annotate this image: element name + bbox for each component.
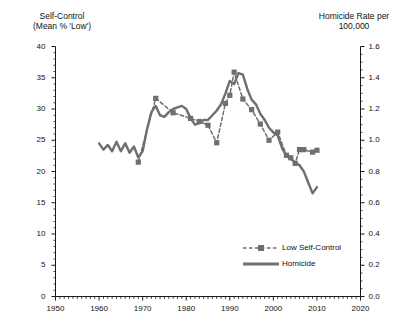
series-marker bbox=[314, 148, 319, 153]
y2-tick-label: 1.0 bbox=[369, 135, 395, 144]
x-tick-label: 1960 bbox=[79, 304, 119, 313]
plot-area bbox=[0, 0, 416, 322]
y-tick-label: 40 bbox=[20, 42, 46, 51]
series-marker bbox=[136, 160, 141, 165]
y2-tick-label: 0.6 bbox=[369, 198, 395, 207]
series-marker bbox=[266, 138, 271, 143]
y2-tick-label: 0.8 bbox=[369, 167, 395, 176]
legend-swatches bbox=[243, 245, 279, 264]
legend-item-low-self-control: Low Self-Control bbox=[282, 243, 341, 253]
y2-tick-label: 0.2 bbox=[369, 260, 395, 269]
series-marker bbox=[227, 93, 232, 98]
series-marker bbox=[153, 96, 158, 101]
y-tick-label: 20 bbox=[20, 167, 46, 176]
series-line-2 bbox=[99, 73, 317, 193]
series-marker bbox=[214, 140, 219, 145]
series-marker bbox=[301, 147, 306, 152]
axes-group bbox=[52, 47, 365, 301]
series-marker bbox=[223, 101, 228, 106]
y-tick-label: 35 bbox=[20, 73, 46, 82]
series-marker bbox=[232, 70, 237, 75]
legend-item-homicide: Homicide bbox=[282, 259, 315, 269]
y2-tick-label: 1.6 bbox=[369, 42, 395, 51]
y-tick-label: 15 bbox=[20, 198, 46, 207]
y-tick-label: 10 bbox=[20, 229, 46, 238]
legend-marker-low-self-control bbox=[258, 245, 264, 251]
x-tick-label: 1980 bbox=[166, 304, 206, 313]
series-group bbox=[99, 70, 319, 194]
y2-tick-label: 1.2 bbox=[369, 104, 395, 113]
series-marker bbox=[240, 96, 245, 101]
series-marker bbox=[249, 107, 254, 112]
x-tick-label: 2000 bbox=[253, 304, 293, 313]
y-tick-label: 30 bbox=[20, 104, 46, 113]
y-tick-label: 0 bbox=[20, 292, 46, 301]
y2-tick-label: 1.4 bbox=[369, 73, 395, 82]
y-tick-label: 5 bbox=[20, 260, 46, 269]
series-marker bbox=[205, 123, 210, 128]
y-tick-label: 25 bbox=[20, 135, 46, 144]
x-tick-label: 1970 bbox=[123, 304, 163, 313]
x-tick-label: 2020 bbox=[341, 304, 381, 313]
y2-tick-label: 0.4 bbox=[369, 229, 395, 238]
chart-container: Self-Control (Mean % 'Low') Homicide Rat… bbox=[0, 0, 416, 322]
x-tick-label: 1990 bbox=[210, 304, 250, 313]
series-marker bbox=[258, 121, 263, 126]
y2-tick-label: 0.0 bbox=[369, 292, 395, 301]
x-tick-label: 2010 bbox=[297, 304, 337, 313]
x-tick-label: 1950 bbox=[36, 304, 76, 313]
